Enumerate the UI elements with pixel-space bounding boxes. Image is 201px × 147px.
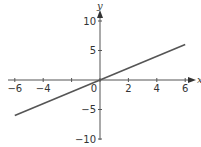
- line-chart: xy−6−40246−10−5510: [0, 0, 201, 147]
- x-tick-label: 4: [154, 83, 160, 94]
- y-axis-arrow-icon: [97, 10, 103, 18]
- y-tick-label: 10: [83, 16, 96, 27]
- x-tick-label: −4: [36, 83, 51, 94]
- x-tick-label: −6: [7, 83, 22, 94]
- y-tick-label: −10: [75, 134, 96, 145]
- x-tick-label: 2: [125, 83, 131, 94]
- x-tick-label: 0: [91, 83, 97, 94]
- y-tick-label: −5: [81, 104, 96, 115]
- y-tick-label: 5: [90, 45, 96, 56]
- x-tick-label: 6: [182, 83, 188, 94]
- x-axis-arrow-icon: [188, 77, 196, 83]
- y-axis-label: y: [96, 0, 103, 11]
- x-axis-label: x: [197, 74, 201, 85]
